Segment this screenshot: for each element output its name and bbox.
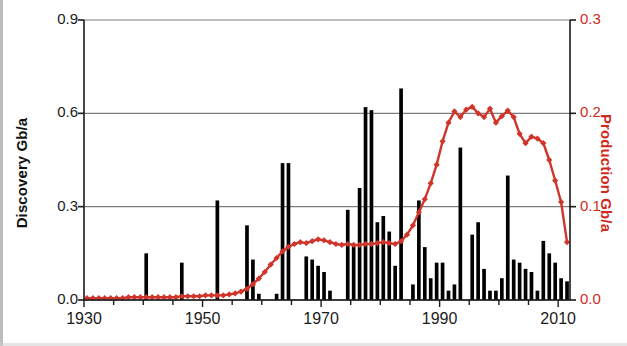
discovery-bar-1962 (275, 294, 279, 300)
production-marker-1955 (232, 290, 238, 296)
y-tick-label-right-2: 0.2 (580, 103, 627, 120)
y-tick-label-left-1: 0.3 (22, 197, 78, 214)
discovery-bar-1970 (322, 272, 326, 300)
discovery-bar-1991 (447, 291, 451, 300)
discovery-bar-2008 (547, 253, 551, 300)
discovery-bar-2009 (553, 263, 557, 300)
production-marker-1968 (309, 238, 315, 244)
discovery-bar-1990 (441, 263, 445, 300)
discovery-bar-2004 (524, 269, 528, 300)
production-marker-1967 (303, 240, 309, 246)
y-tick-label-left-3: 0.9 (22, 10, 78, 27)
y-tick-label-right-1: 0.1 (580, 197, 627, 214)
discovery-bar-1985 (411, 284, 415, 300)
production-line (87, 107, 567, 298)
oil-discovery-production-chart: Discovery Gb/a Production Gb/a 0.00.30.6… (0, 0, 627, 346)
discovery-bar-1952 (216, 200, 220, 300)
discovery-bar-1977 (364, 107, 368, 300)
discovery-bar-1967 (304, 256, 308, 300)
x-tick-label-3: 1990 (400, 310, 480, 328)
production-marker-2008 (546, 157, 552, 163)
production-marker-1989 (434, 162, 440, 168)
production-marker-1974 (345, 241, 351, 247)
discovery-bar-1964 (287, 163, 291, 300)
x-tick-label-1: 1950 (163, 310, 243, 328)
production-marker-1948 (191, 293, 197, 299)
discovery-bar-1992 (453, 284, 457, 300)
production-marker-1969 (315, 236, 321, 242)
discovery-bars-group (144, 88, 568, 300)
production-marker-1953 (220, 292, 226, 298)
discovery-bar-1974 (346, 210, 350, 300)
discovery-bar-1963 (281, 163, 285, 300)
discovery-bar-1993 (459, 148, 463, 300)
production-marker-1954 (226, 291, 232, 297)
discovery-bar-1987 (423, 247, 427, 300)
production-marker-1950 (202, 292, 208, 298)
production-marker-1972 (333, 241, 339, 247)
discovery-bar-1959 (257, 294, 261, 300)
y-tick-label-left-2: 0.6 (22, 103, 78, 120)
discovery-bar-1968 (310, 260, 314, 300)
production-marker-1977 (362, 241, 368, 247)
discovery-bar-1980 (381, 216, 385, 300)
discovery-bar-1988 (429, 278, 433, 300)
discovery-bar-2005 (530, 272, 534, 300)
y-tick-label-right-3: 0.3 (580, 10, 627, 27)
production-marker-1990 (439, 138, 445, 144)
production-marker-1980 (380, 239, 386, 245)
discovery-bar-1997 (482, 269, 486, 300)
discovery-bar-2010 (559, 278, 563, 300)
discovery-bar-1979 (376, 222, 380, 300)
production-marker-1949 (196, 293, 202, 299)
production-marker-1988 (428, 180, 434, 186)
production-marker-1976 (357, 242, 363, 248)
discovery-bar-1958 (251, 260, 255, 300)
discovery-bar-1971 (328, 291, 332, 300)
production-marker-1951 (208, 292, 214, 298)
discovery-bar-1975 (352, 244, 356, 300)
production-marker-2009 (552, 177, 558, 183)
production-marker-2010 (558, 199, 564, 205)
plot-area (0, 0, 627, 346)
production-line-group (84, 104, 570, 302)
discovery-bar-1978 (370, 110, 374, 300)
discovery-bar-1969 (316, 266, 320, 300)
production-marker-1978 (368, 241, 374, 247)
discovery-bar-2011 (565, 281, 569, 300)
production-marker-1979 (374, 240, 380, 246)
discovery-bar-1983 (399, 88, 403, 300)
production-marker-1966 (297, 239, 303, 245)
production-marker-1970 (321, 237, 327, 243)
discovery-bar-1998 (488, 291, 492, 300)
discovery-bar-1995 (470, 235, 474, 300)
production-marker-1975 (351, 242, 357, 248)
discovery-bar-1999 (494, 291, 498, 300)
y-tick-label-right-0: 0.0 (580, 290, 627, 307)
x-tick-label-4: 2010 (518, 310, 598, 328)
discovery-bar-1982 (393, 266, 397, 300)
x-tick-label-0: 1930 (44, 310, 124, 328)
production-marker-1947 (185, 293, 191, 299)
discovery-bar-2001 (506, 176, 510, 300)
production-marker-1946 (179, 293, 185, 299)
production-marker-1971 (327, 239, 333, 245)
discovery-bar-2002 (512, 260, 516, 300)
discovery-bar-2000 (500, 278, 504, 300)
discovery-bar-2006 (536, 291, 540, 300)
discovery-bar-1989 (435, 263, 439, 300)
y-tick-label-left-0: 0.0 (22, 290, 78, 307)
production-marker-1952 (214, 292, 220, 298)
discovery-bar-1996 (476, 222, 480, 300)
discovery-bar-1940 (144, 253, 148, 300)
production-marker-1981 (386, 240, 392, 246)
x-tick-label-2: 1970 (281, 310, 361, 328)
discovery-bar-2003 (518, 263, 522, 300)
production-marker-1973 (339, 242, 345, 248)
discovery-bar-2007 (541, 241, 545, 300)
